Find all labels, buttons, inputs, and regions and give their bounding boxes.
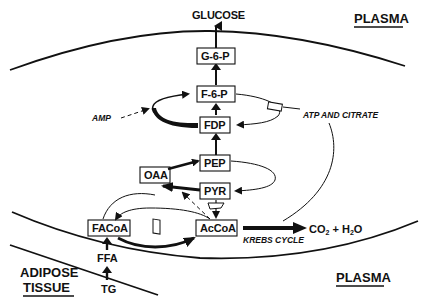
ffa-label: FFA xyxy=(97,252,118,264)
plasma-label-bottom: PLASMA xyxy=(336,270,392,286)
node-pep: PEP xyxy=(200,155,230,171)
atp-citrate-label: ATP AND CITRATE xyxy=(302,110,378,120)
amp-activation-arrow xyxy=(121,109,148,118)
co2-h2o-label: CO2 + H2O xyxy=(309,223,363,236)
arrow-pep-to-pyr xyxy=(231,161,275,191)
svg-text:PYR: PYR xyxy=(204,185,226,197)
node-accoa: AcCoA xyxy=(196,220,237,236)
tg-label: TG xyxy=(101,283,116,295)
inhibition-block-cpt xyxy=(153,219,160,234)
svg-text:OAA: OAA xyxy=(144,169,168,181)
svg-text:PLASMA: PLASMA xyxy=(336,270,392,285)
node-oaa: OAA xyxy=(140,167,170,183)
svg-text:ADIPOSE: ADIPOSE xyxy=(20,265,79,280)
node-fdp: FDP xyxy=(200,117,230,133)
arrow-accoa-feedback-to-facoa xyxy=(116,208,210,219)
arrow-facoa-to-accoa xyxy=(118,238,194,247)
atp-citrate-inhibition-line xyxy=(283,107,300,109)
glucose-label: GLUCOSE xyxy=(192,9,245,21)
node-pyr: PYR xyxy=(200,183,230,199)
node-g6p: G-6-P xyxy=(197,48,235,64)
svg-text:G-6-P: G-6-P xyxy=(201,50,229,62)
arrow-pyr-to-oaa xyxy=(163,186,200,190)
krebs-cycle-label: KREBS CYCLE xyxy=(243,235,304,245)
arrow-facoa-outer-arc xyxy=(103,194,155,219)
inhibition-block-pdh xyxy=(208,203,224,209)
citrate-feedback-line xyxy=(283,123,334,221)
inhibition-block-pfk xyxy=(267,102,282,111)
svg-text:FACoA: FACoA xyxy=(92,222,128,234)
arrow-oaa-to-pep xyxy=(168,161,198,169)
adipose-tissue-label: ADIPOSE TISSUE xyxy=(20,265,79,296)
svg-text:AcCoA: AcCoA xyxy=(200,222,236,234)
svg-text:TISSUE: TISSUE xyxy=(23,280,70,295)
svg-text:PLASMA: PLASMA xyxy=(354,11,410,26)
amp-label: AMP xyxy=(91,113,111,123)
svg-text:PEP: PEP xyxy=(204,157,225,169)
node-facoa: FACoA xyxy=(88,220,130,236)
arrow-fdp-to-f6p-bypass xyxy=(153,94,198,126)
plasma-label-top: PLASMA xyxy=(354,11,410,27)
metabolic-pathway-diagram: PLASMA PLASMA ADIPOSE TISSUE GLUCOSE G-6… xyxy=(0,0,429,302)
svg-text:FDP: FDP xyxy=(204,119,225,131)
node-f6p: F-6-P xyxy=(197,86,235,102)
svg-text:F-6-P: F-6-P xyxy=(201,88,228,100)
